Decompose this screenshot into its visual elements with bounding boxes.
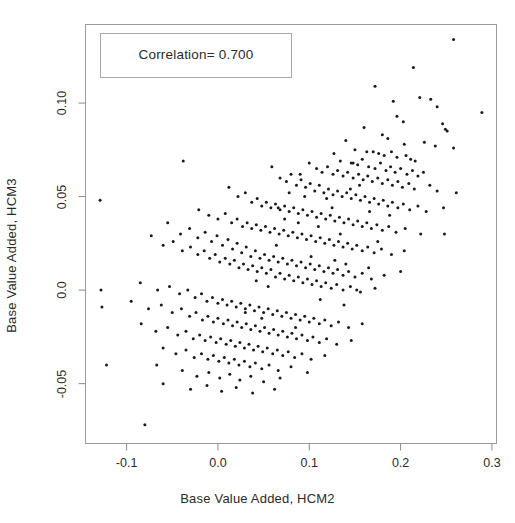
data-point	[265, 272, 268, 275]
data-point	[290, 365, 293, 368]
data-point	[291, 231, 294, 234]
data-point	[271, 313, 274, 316]
data-point	[395, 156, 398, 159]
data-point	[221, 244, 224, 247]
data-point	[386, 204, 389, 207]
data-point	[345, 191, 348, 194]
data-point	[325, 197, 328, 200]
data-point	[238, 378, 241, 381]
data-point	[320, 285, 323, 288]
data-point	[283, 277, 286, 280]
data-point	[379, 161, 382, 164]
data-point	[351, 247, 354, 250]
data-point	[418, 96, 421, 99]
data-point	[229, 339, 232, 342]
data-point	[130, 300, 133, 303]
data-point	[423, 141, 426, 144]
data-point	[405, 173, 408, 176]
data-point	[324, 218, 327, 221]
data-point	[274, 276, 277, 279]
data-point	[221, 298, 224, 301]
data-point	[370, 227, 373, 230]
data-point	[268, 332, 271, 335]
data-point	[180, 307, 183, 310]
data-point	[374, 167, 377, 170]
data-point	[300, 178, 303, 181]
data-point	[184, 348, 187, 351]
data-point	[301, 208, 304, 211]
data-point	[395, 231, 398, 234]
data-point	[268, 363, 271, 366]
data-point	[257, 345, 260, 348]
data-point	[105, 363, 108, 366]
data-point	[288, 191, 291, 194]
data-point	[338, 216, 341, 219]
data-point	[273, 227, 276, 230]
data-point	[189, 246, 192, 249]
data-point	[306, 371, 309, 374]
data-point	[339, 160, 342, 163]
data-point	[223, 356, 226, 359]
x-axis-ticks	[127, 444, 492, 451]
data-point	[353, 276, 356, 279]
data-point	[154, 330, 157, 333]
data-point	[255, 223, 258, 226]
data-point	[352, 161, 355, 164]
data-point	[373, 197, 376, 200]
data-point	[272, 328, 275, 331]
data-point	[300, 261, 303, 264]
data-point	[209, 335, 212, 338]
data-point	[206, 358, 209, 361]
data-point	[381, 182, 384, 185]
data-point	[231, 247, 234, 250]
data-point	[380, 247, 383, 250]
data-point	[309, 182, 312, 185]
data-point	[266, 347, 269, 350]
data-point	[480, 111, 483, 114]
data-point	[344, 262, 347, 265]
data-point	[359, 199, 362, 202]
data-point	[212, 354, 215, 357]
data-point	[226, 238, 229, 241]
data-point	[267, 285, 270, 288]
data-point	[268, 259, 271, 262]
data-point	[273, 388, 276, 391]
data-point	[355, 244, 358, 247]
data-point	[247, 268, 250, 271]
data-point	[248, 365, 251, 368]
correlation-label: Correlation= 0.700	[101, 47, 292, 62]
data-point	[287, 350, 290, 353]
data-point	[413, 188, 416, 191]
data-point	[306, 339, 309, 342]
data-point	[272, 255, 275, 258]
data-point	[201, 319, 204, 322]
data-point	[295, 184, 298, 187]
data-point	[416, 175, 419, 178]
data-point	[279, 176, 282, 179]
data-point	[361, 249, 364, 252]
data-point	[353, 148, 356, 151]
data-point	[390, 150, 393, 153]
data-point	[362, 178, 365, 181]
data-point	[361, 272, 364, 275]
data-point	[147, 307, 150, 310]
data-point	[384, 169, 387, 172]
data-point	[390, 253, 393, 256]
data-point	[337, 240, 340, 243]
data-point	[297, 212, 300, 215]
data-point	[241, 225, 244, 228]
data-point	[244, 307, 247, 310]
data-point	[377, 152, 380, 155]
data-point	[250, 201, 253, 204]
data-point	[327, 266, 330, 269]
data-point	[290, 332, 293, 335]
data-point	[322, 191, 325, 194]
data-point	[245, 246, 248, 249]
data-point	[350, 197, 353, 200]
data-point	[275, 244, 278, 247]
data-point	[176, 334, 179, 337]
data-point	[179, 233, 182, 236]
data-point	[243, 347, 246, 350]
data-point	[294, 326, 297, 329]
data-point	[277, 206, 280, 209]
